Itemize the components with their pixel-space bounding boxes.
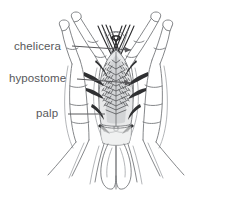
basis-capituli-structure xyxy=(101,126,132,145)
tick-capitulum-figure: chelicera hypostome palp xyxy=(0,0,232,200)
label-palp: palp xyxy=(36,107,58,119)
label-chelicera: chelicera xyxy=(14,40,61,52)
label-hypostome: hypostome xyxy=(9,72,66,84)
anatomy-illustration: chelicera hypostome palp xyxy=(0,0,232,200)
